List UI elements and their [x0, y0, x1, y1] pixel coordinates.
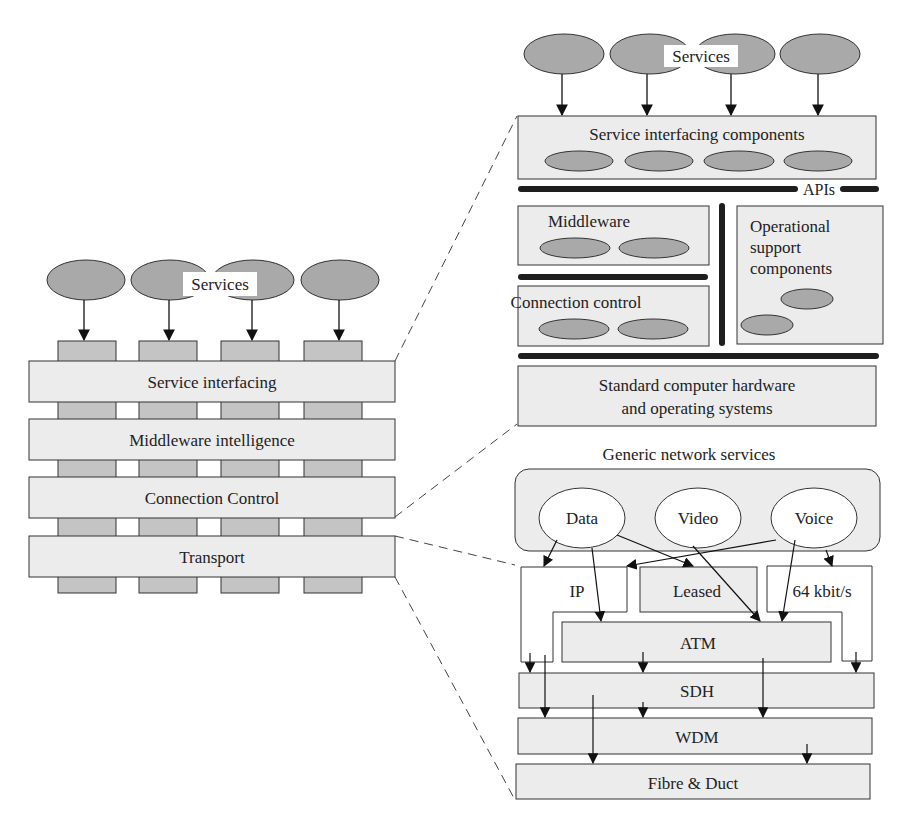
- layer-label: Middleware intelligence: [129, 431, 295, 450]
- left-layer-diagram: Services Service interfacing Middleware …: [29, 260, 395, 593]
- hardware-label: Standard computer hardware: [599, 376, 795, 395]
- hardware-label: and operating systems: [621, 399, 772, 418]
- left-service-arrows: [84, 300, 339, 340]
- apis-label: APIs: [803, 181, 835, 198]
- wdm-label: WDM: [675, 728, 718, 747]
- kbit-label: 64 kbit/s: [792, 582, 851, 601]
- layer-label: Connection Control: [145, 489, 280, 508]
- transport-network-diagram: Generic network services Data Video Voic…: [515, 445, 880, 799]
- data-label: Data: [566, 509, 599, 528]
- atm-label: ATM: [680, 634, 716, 653]
- upper-service-arrows: [562, 74, 818, 115]
- voice-label: Voice: [795, 509, 833, 528]
- layer-label: Service interfacing: [148, 373, 277, 392]
- ip-label: IP: [569, 582, 584, 601]
- service-oval: [47, 260, 125, 300]
- network-architecture-diagram: Services Service interfacing Middleware …: [0, 0, 909, 833]
- ops-label: Operational: [750, 217, 831, 236]
- service-oval: [301, 260, 379, 300]
- generic-network-services-title: Generic network services: [603, 445, 776, 464]
- service-oval: [524, 34, 604, 74]
- software-architecture-diagram: Services Service interfacing components …: [511, 34, 883, 426]
- upper-services-label: Services: [672, 47, 730, 66]
- zoom-connector-lines: [395, 116, 517, 800]
- left-services-label: Services: [191, 275, 249, 294]
- fibre-duct-label: Fibre & Duct: [648, 774, 739, 793]
- sdh-label: SDH: [680, 682, 714, 701]
- video-label: Video: [678, 509, 719, 528]
- leased-label: Leased: [673, 582, 722, 601]
- middleware-label: Middleware: [548, 212, 630, 231]
- connection-control-label: Connection control: [511, 293, 642, 312]
- service-oval: [780, 34, 860, 74]
- service-interfacing-label: Service interfacing components: [589, 125, 804, 144]
- ops-label: components: [750, 259, 832, 278]
- ops-label: support: [750, 238, 801, 257]
- layer-label: Transport: [179, 548, 245, 567]
